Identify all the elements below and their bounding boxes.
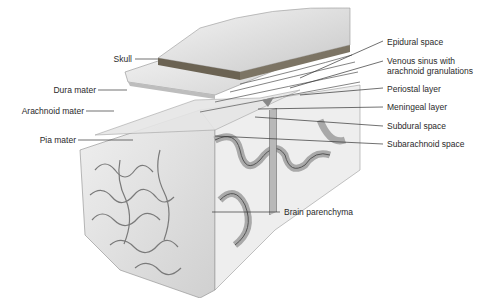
label-skull: Skull [114,54,132,64]
label-brain-parenchyma: Brain parenchyma [284,207,353,217]
label-epidural-space: Epidural space [387,37,443,47]
label-meningeal-layer: Meningeal layer [387,102,447,112]
meninges-diagram: Skull Dura mater Arachnoid mater Pia mat… [0,0,489,298]
label-subdural-space: Subdural space [387,121,446,131]
label-arachnoid-mater: Arachnoid mater [22,106,84,116]
label-periostal-layer: Periostal layer [387,84,441,94]
label-pia-mater: Pia mater [40,135,76,145]
label-venous-sinus-line2: arachnoid granulations [387,66,473,76]
label-subarachnoid-space: Subarachnoid space [387,139,465,149]
label-venous-sinus-line1: Venous sinus with [387,56,455,66]
label-dura-mater: Dura mater [53,85,96,95]
